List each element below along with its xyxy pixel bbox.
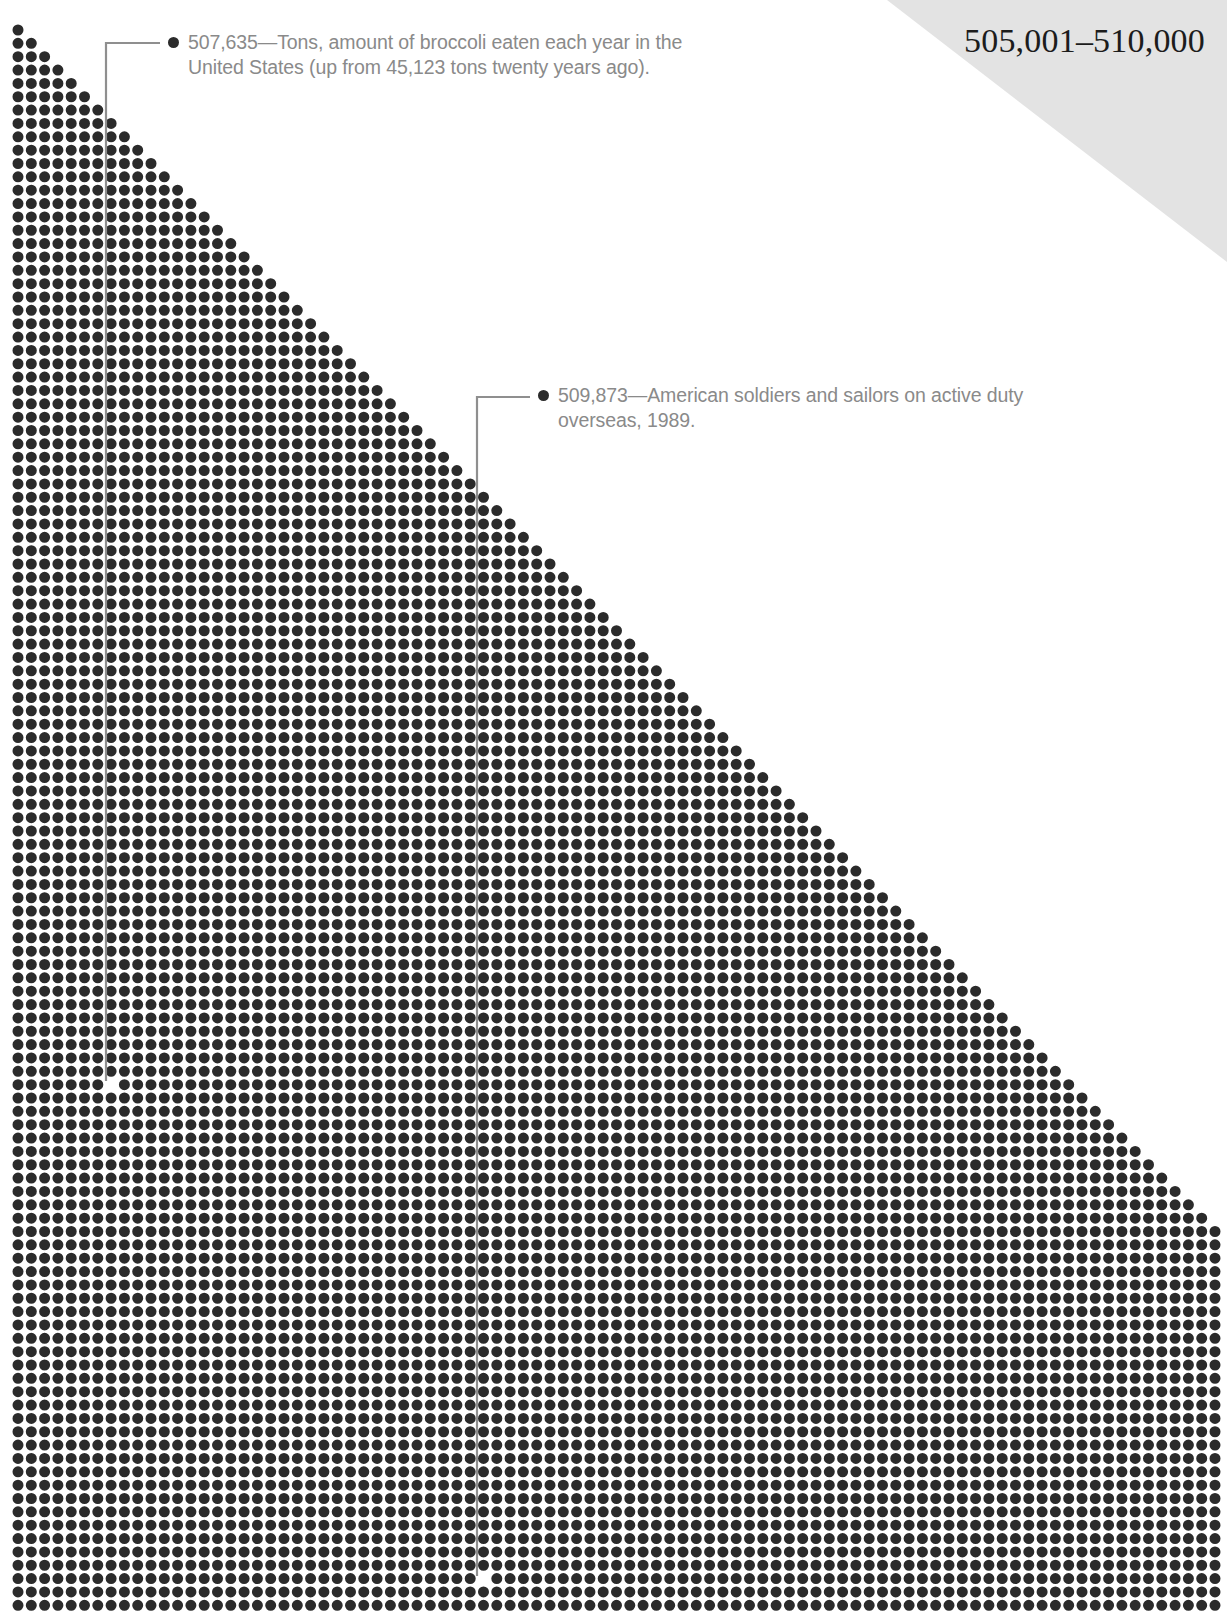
annotation-broccoli-text: 507,635—Tons, amount of broccoli eaten e… — [188, 30, 688, 80]
annotation-broccoli: 507,635—Tons, amount of broccoli eaten e… — [168, 30, 688, 80]
dot-cluster — [13, 25, 1221, 1611]
dot-field — [0, 0, 1227, 1615]
dot-grid-svg — [0, 0, 1227, 1615]
annotation-soldiers-text: 509,873—American soldiers and sailors on… — [558, 383, 1058, 433]
filled-circle-icon — [168, 37, 179, 48]
range-title: 505,001–510,000 — [964, 22, 1205, 60]
annotation-soldiers: 509,873—American soldiers and sailors on… — [538, 383, 1058, 433]
filled-circle-icon — [538, 390, 549, 401]
